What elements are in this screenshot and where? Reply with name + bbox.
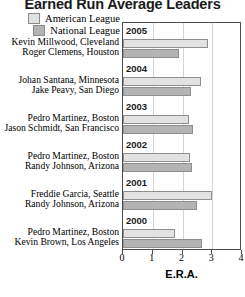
tick-label-4: 4	[231, 252, 245, 263]
player-label-column: Kevin Millwood, ClevelandRoger Clemens, …	[0, 22, 119, 250]
bar-nl-2005	[123, 49, 179, 58]
bar-nl-2000	[123, 239, 202, 248]
tick-label-1: 1	[142, 252, 162, 263]
tick-label-2: 2	[172, 252, 192, 263]
bar-al-2003	[123, 115, 189, 124]
player-name-nl-2001: Randy Johnson, Arizona	[0, 199, 119, 209]
gridline-3	[212, 23, 213, 249]
bar-nl-2002	[123, 163, 192, 172]
player-group-2000: Pedro Martinez, BostonKevin Brown, Los A…	[0, 227, 119, 247]
tick-label-3: 3	[201, 252, 221, 263]
player-group-2005: Kevin Millwood, ClevelandRoger Clemens, …	[0, 37, 119, 57]
player-group-2002: Pedro Martinez, BostonRandy Johnson, Ari…	[0, 151, 119, 171]
bar-nl-2004	[123, 87, 191, 96]
bar-al-2005	[123, 39, 208, 48]
player-group-2003: Pedro Martinez, BostonJason Schmidt, San…	[0, 113, 119, 133]
bar-nl-2003	[123, 125, 193, 134]
year-label-2005: 2005	[126, 25, 147, 36]
year-label-2004: 2004	[126, 63, 147, 74]
player-name-nl-2003: Jason Schmidt, San Francisco	[0, 123, 119, 133]
bar-al-2004	[123, 77, 201, 86]
player-group-2004: Johan Santana, MinnesotaJake Peavy, San …	[0, 75, 119, 95]
bar-al-2002	[123, 153, 190, 162]
player-name-nl-2000: Kevin Brown, Los Angeles	[0, 237, 119, 247]
chart-title: Earned Run Average Leaders	[0, 0, 245, 12]
player-group-2001: Freddie Garcia, SeattleRandy Johnson, Ar…	[0, 189, 119, 209]
year-label-2003: 2003	[126, 101, 147, 112]
year-label-2000: 2000	[126, 215, 147, 226]
player-name-nl-2004: Jake Peavy, San Diego	[0, 85, 119, 95]
bar-nl-2001	[123, 201, 197, 210]
x-axis-title: E.R.A.	[122, 268, 241, 280]
player-name-nl-2002: Randy Johnson, Arizona	[0, 161, 119, 171]
year-label-2001: 2001	[126, 177, 147, 188]
tick-label-0: 0	[112, 252, 132, 263]
x-axis-tick-labels: 01234	[0, 252, 245, 265]
year-label-2002: 2002	[126, 139, 147, 150]
bar-al-2000	[123, 229, 175, 238]
gridline-2	[183, 23, 184, 249]
bar-al-2001	[123, 191, 212, 200]
player-name-nl-2005: Roger Clemens, Houston	[0, 47, 119, 57]
plot-area: 200520042003200220012000	[122, 22, 241, 250]
